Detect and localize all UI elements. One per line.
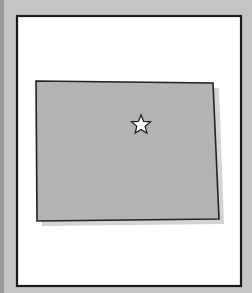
map-canvas	[0, 0, 252, 293]
state-region[interactable]	[36, 81, 219, 221]
